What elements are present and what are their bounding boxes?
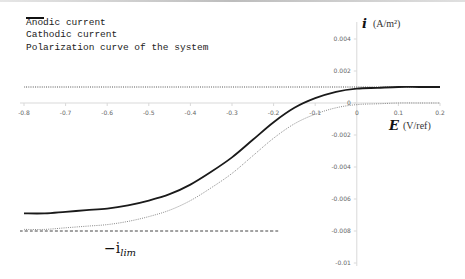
- legend-label: Cathodic current: [26, 29, 117, 40]
- y-tick-label: -0.002: [331, 131, 351, 138]
- x-axis-symbol: E: [388, 118, 400, 133]
- y-tick-label: -0.008: [331, 227, 351, 234]
- y-axis-unit: (A/m²): [373, 18, 400, 30]
- x-tick-label: -0.2: [268, 109, 280, 116]
- x-tick-label: -0.4: [185, 109, 197, 116]
- x-tick-label: -0.8: [18, 109, 30, 116]
- y-tick-label: -0.01: [335, 259, 351, 266]
- x-tick-label: 0.1: [394, 109, 404, 116]
- x-tick-label: -0.3: [226, 109, 238, 116]
- x-tick-label: -0.6: [101, 109, 113, 116]
- legend-item-anodic: Anodic current: [26, 16, 208, 29]
- legend-label: Polarization curve of the system: [26, 42, 208, 53]
- y-tick-label: -0.006: [331, 195, 351, 202]
- y-tick-label: 0.004: [334, 35, 351, 42]
- axes: -0.8-0.7-0.6-0.5-0.4-0.3-0.2-0.100.10.20…: [18, 22, 445, 266]
- x-tick-label: 0: [355, 109, 359, 116]
- y-axis-symbol: i: [362, 16, 367, 31]
- x-tick-label: -0.5: [143, 109, 155, 116]
- x-tick-label: -0.7: [60, 109, 72, 116]
- x-tick-label: 0.2: [435, 109, 445, 116]
- ilim-annotation: −ilim: [104, 240, 136, 258]
- y-tick-label: -0.004: [331, 163, 351, 170]
- x-axis-unit: (V/ref): [403, 120, 431, 132]
- legend: Anodic current Cathodic current Polariza…: [26, 16, 208, 54]
- legend-item-cathodic: Cathodic current: [26, 29, 208, 42]
- legend-item-polarization: Polarization curve of the system: [26, 41, 208, 54]
- x-tick-label: -0.1: [309, 109, 321, 116]
- y-tick-label: 0.002: [334, 67, 351, 74]
- solid-line-swatch-icon: [26, 16, 44, 20]
